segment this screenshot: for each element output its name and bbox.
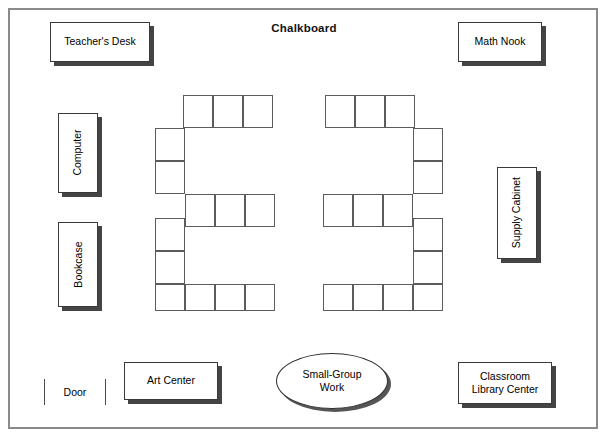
furniture-art-center: Art Center <box>124 362 218 400</box>
desk-cell <box>325 95 355 128</box>
wall-bottom <box>8 427 598 429</box>
desk-cell <box>245 284 275 311</box>
desk-cell <box>155 284 185 311</box>
classroom-floor-plan: Chalkboard Teacher's Desk Math Nook Comp… <box>0 0 608 442</box>
desk-cell <box>243 95 273 128</box>
desk-cell <box>215 284 245 311</box>
computer-label: Computer <box>71 130 84 176</box>
desk-cell <box>155 161 185 194</box>
desk-cell <box>323 194 353 227</box>
desk-cell <box>383 194 413 227</box>
desk-cell <box>215 194 245 227</box>
desk-cell <box>385 95 415 128</box>
furniture-math-nook: Math Nook <box>458 22 542 62</box>
small-group-work-area: Small-Group Work <box>276 353 388 409</box>
classroom-library-center-label: Classroom Library Center <box>472 370 539 396</box>
wall-top <box>8 8 598 10</box>
desk-cell <box>413 161 443 194</box>
door-label: Door <box>64 386 87 398</box>
desk-cell <box>155 218 185 251</box>
wall-left <box>8 8 10 429</box>
supply-cabinet-label: Supply Cabinet <box>510 177 523 248</box>
furniture-classroom-library-center: Classroom Library Center <box>458 362 552 404</box>
furniture-supply-cabinet: Supply Cabinet <box>497 167 537 259</box>
desk-cell <box>353 194 383 227</box>
desk-cell <box>383 284 413 311</box>
desk-cell <box>413 284 443 311</box>
wall-right <box>596 8 598 429</box>
art-center-label: Art Center <box>147 374 195 387</box>
door-tick-right <box>105 379 106 405</box>
desk-cell <box>183 95 213 128</box>
furniture-teachers-desk: Teacher's Desk <box>50 22 150 62</box>
door-marker: Door <box>44 377 106 407</box>
teachers-desk-label: Teacher's Desk <box>64 35 135 48</box>
furniture-computer: Computer <box>58 113 98 193</box>
desk-cell <box>155 251 185 284</box>
math-nook-label: Math Nook <box>475 35 526 48</box>
desk-cell <box>355 95 385 128</box>
desk-cell <box>413 128 443 161</box>
furniture-bookcase: Bookcase <box>58 222 98 307</box>
desk-cell <box>323 284 353 311</box>
desk-cell <box>185 194 215 227</box>
desk-cell <box>245 194 275 227</box>
bookcase-label: Bookcase <box>71 241 84 287</box>
door-tick-left <box>44 379 45 405</box>
small-group-work-label: Small-Group Work <box>303 368 362 394</box>
desk-cell <box>353 284 383 311</box>
desk-cell <box>413 218 443 251</box>
desk-cell <box>413 251 443 284</box>
desk-cell <box>213 95 243 128</box>
desk-cell <box>155 128 185 161</box>
desk-cell <box>185 284 215 311</box>
